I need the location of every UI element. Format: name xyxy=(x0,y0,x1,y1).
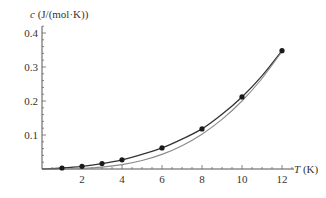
curves xyxy=(42,51,282,169)
chart: 246810120.10.20.30.4 c (J/(mol·K)) T (K) xyxy=(0,0,326,198)
data-points xyxy=(59,48,284,170)
cubic-term-curve xyxy=(42,51,282,169)
axes: 246810120.10.20.30.4 xyxy=(24,26,294,185)
y-tick-label: 0.2 xyxy=(24,95,38,107)
data-point xyxy=(239,94,244,99)
data-point xyxy=(99,161,104,166)
x-tick-label: 4 xyxy=(119,173,125,185)
x-tick-label: 8 xyxy=(199,173,205,185)
y-tick-label: 0.3 xyxy=(24,61,38,73)
y-tick-label: 0.4 xyxy=(24,27,38,39)
data-point xyxy=(79,164,84,169)
data-point xyxy=(159,145,164,150)
data-point xyxy=(199,126,204,131)
x-tick-label: 6 xyxy=(159,173,165,185)
x-tick-label: 12 xyxy=(277,173,288,185)
y-tick-label: 0.1 xyxy=(24,129,38,141)
x-tick-label: 2 xyxy=(79,173,85,185)
y-axis-title: c (J/(mol·K)) xyxy=(30,8,89,21)
data-point xyxy=(59,165,64,170)
x-tick-label: 10 xyxy=(237,173,249,185)
data-point xyxy=(279,48,284,53)
data-point xyxy=(119,157,124,162)
x-axis-title: T (K) xyxy=(294,163,318,176)
fit-curve xyxy=(42,51,282,169)
